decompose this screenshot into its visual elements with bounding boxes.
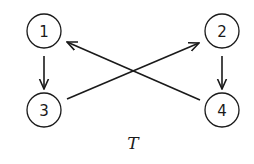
node-2-label: 2 xyxy=(217,23,227,41)
node-3: 3 xyxy=(27,93,61,127)
node-1: 1 xyxy=(27,14,61,48)
diagram-caption: T xyxy=(127,133,140,153)
node-3-label: 3 xyxy=(39,102,49,120)
node-4: 4 xyxy=(205,93,239,127)
node-4-label: 4 xyxy=(217,102,227,120)
graph-diagram: 1 2 3 4 T xyxy=(0,0,254,164)
node-2: 2 xyxy=(205,14,239,48)
node-1-label: 1 xyxy=(39,23,49,41)
